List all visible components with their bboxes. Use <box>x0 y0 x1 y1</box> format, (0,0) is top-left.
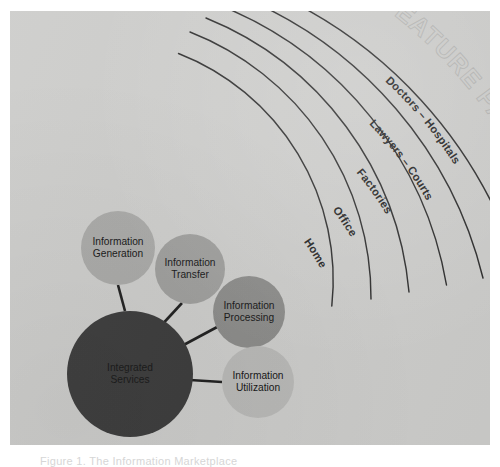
spoke-to-information-generation <box>118 285 125 311</box>
arc-lawyers-courts <box>224 11 447 285</box>
node-information-utilization[interactable] <box>222 346 294 418</box>
arc-label-office: Office <box>331 204 360 238</box>
arc-label-office-text: Office <box>331 204 360 238</box>
figure-caption: Figure 1. The Information Marketplace <box>40 455 300 467</box>
figure-page: Home Office Factories Lawyers – Courts D… <box>0 0 500 467</box>
arc-label-home-text: Home <box>302 236 329 270</box>
node-integrated-services[interactable] <box>67 311 193 437</box>
node-information-transfer[interactable] <box>155 234 225 304</box>
node-information-generation[interactable] <box>81 211 155 285</box>
node-information-processing[interactable] <box>213 276 285 348</box>
diagram-canvas: Home Office Factories Lawyers – Courts D… <box>10 11 490 445</box>
spoke-to-information-utilization <box>190 380 222 382</box>
figure-caption-text: Figure 1. The Information Marketplace <box>40 455 300 467</box>
node-group <box>67 211 294 437</box>
figure-plate: Home Office Factories Lawyers – Courts D… <box>10 11 490 445</box>
arc-label-home: Home <box>302 236 329 270</box>
